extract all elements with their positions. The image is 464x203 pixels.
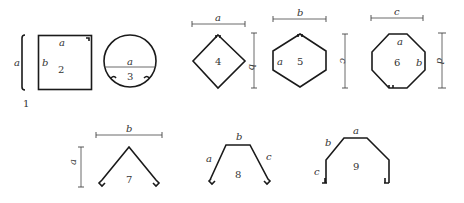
label-3-diameter: a bbox=[127, 56, 133, 67]
shape-8: a b c 8 bbox=[206, 131, 272, 184]
shape-number-9: 9 bbox=[353, 161, 359, 172]
label-8-right: c bbox=[266, 151, 272, 162]
label-5-side: a bbox=[277, 56, 283, 67]
label-4-width: a bbox=[215, 12, 221, 23]
shape-number-4: 4 bbox=[215, 56, 221, 67]
label-8-top: b bbox=[236, 131, 242, 142]
label-9-leg: c bbox=[314, 166, 320, 177]
shape-1: a 1 bbox=[14, 35, 29, 109]
shape-6: c a b 6 d bbox=[371, 6, 446, 88]
shape-7: b a 7 bbox=[67, 123, 162, 187]
label-2-left: b bbox=[42, 57, 48, 68]
label-4-height: b bbox=[247, 64, 258, 70]
shape-number-2: 2 bbox=[58, 64, 64, 75]
shape-number-3: 3 bbox=[127, 71, 133, 82]
label-9-slope: b bbox=[325, 137, 331, 148]
label-8-left: a bbox=[206, 153, 212, 164]
shape-number-7: 7 bbox=[126, 174, 132, 185]
seam-hook-left bbox=[111, 77, 116, 79]
duct-sections-diagram: a 1 a b 2 a 3 a b 4 b bbox=[0, 0, 464, 203]
shape-4: a b 4 bbox=[192, 12, 258, 88]
label-7-width: b bbox=[126, 123, 132, 134]
shape-number-5: 5 bbox=[297, 56, 303, 67]
seam-hook bbox=[86, 38, 89, 41]
shape-2: a b 2 bbox=[39, 36, 92, 90]
shape-number-6: 6 bbox=[394, 57, 400, 68]
shape-number-1: 1 bbox=[23, 98, 29, 109]
label-1-side: a bbox=[14, 57, 20, 68]
label-5-height: c bbox=[338, 58, 349, 64]
label-5-width: b bbox=[297, 7, 303, 18]
label-7-height: a bbox=[67, 159, 78, 165]
label-6-width: c bbox=[394, 6, 400, 17]
shape-9: a b c 9 bbox=[314, 125, 389, 183]
label-6-side: b bbox=[416, 57, 422, 68]
shape-5: b a 5 c bbox=[273, 7, 349, 88]
label-2-top: a bbox=[59, 37, 65, 48]
strip-outline bbox=[22, 35, 25, 90]
shape-number-8: 8 bbox=[235, 169, 241, 180]
shape-3: a 3 bbox=[104, 35, 156, 87]
seam-hook-right bbox=[144, 77, 149, 79]
label-6-height: d bbox=[435, 58, 446, 64]
label-9-top: a bbox=[353, 125, 359, 136]
label-6-top: a bbox=[397, 36, 403, 47]
